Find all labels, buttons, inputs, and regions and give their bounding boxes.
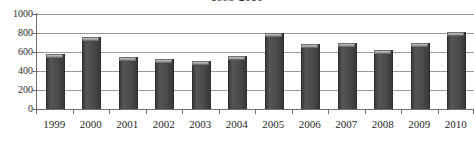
- y-axis-tick-label: 600: [0, 47, 33, 57]
- x-axis-tick-mark: [328, 109, 329, 114]
- chart-title: 1999-2010: [0, 0, 474, 3]
- x-axis-tick-mark: [365, 109, 366, 114]
- bar: [265, 33, 284, 109]
- x-axis-label-group: 1999200020012002200320042005200620072008…: [36, 117, 474, 139]
- x-axis-tick-label: 2005: [255, 117, 291, 131]
- x-axis-tick-mark: [401, 109, 402, 114]
- y-axis-tick-mark: [33, 71, 38, 72]
- x-axis-tick-mark: [219, 109, 220, 114]
- y-axis-tick-label: 1000: [0, 9, 33, 19]
- y-axis-tick-mark: [33, 33, 38, 34]
- x-axis-tick-label: 2000: [73, 117, 109, 131]
- x-axis-tick-mark: [182, 109, 183, 114]
- y-axis-tick-mark: [33, 52, 38, 53]
- x-axis-tick-mark: [255, 109, 256, 114]
- bar-top-cap: [411, 43, 428, 47]
- bar: [155, 59, 174, 109]
- bar-top-cap: [374, 50, 391, 54]
- bar: [82, 37, 101, 109]
- bar-top-cap: [228, 56, 245, 60]
- bar-top-cap: [46, 54, 63, 58]
- y-axis-tick-label: 800: [0, 28, 33, 38]
- y-axis-tick-label: 400: [0, 66, 33, 76]
- bar: [374, 50, 393, 109]
- y-axis-label-group: 10008006004002000: [0, 0, 33, 147]
- x-axis-tick-group: [36, 109, 474, 115]
- x-axis-tick-mark: [438, 109, 439, 114]
- bar-top-cap: [155, 59, 172, 63]
- bar: [411, 43, 430, 110]
- bar-top-cap: [192, 61, 209, 65]
- x-axis-tick-mark: [146, 109, 147, 114]
- y-axis-tick-mark: [33, 109, 38, 110]
- bar: [119, 57, 138, 109]
- y-axis-tick-mark: [33, 90, 38, 91]
- x-axis-tick-label: 1999: [36, 117, 72, 131]
- bar: [301, 44, 320, 109]
- bar-top-cap: [82, 37, 99, 41]
- x-axis-tick-mark: [73, 109, 74, 114]
- x-axis-tick-label: 2004: [219, 117, 255, 131]
- bar: [46, 54, 65, 109]
- x-axis-tick-label: 2010: [438, 117, 474, 131]
- bar: [228, 56, 247, 109]
- bar-chart-figure: 1999-2010 10008006004002000 199920002001…: [0, 0, 474, 147]
- x-axis-tick-label: 2007: [328, 117, 364, 131]
- x-axis-tick-label: 2006: [292, 117, 328, 131]
- bar: [447, 32, 466, 109]
- x-axis-tick-label: 2002: [146, 117, 182, 131]
- bar-top-cap: [338, 43, 355, 47]
- bar-top-cap: [119, 57, 136, 61]
- y-axis-tick-label: 200: [0, 85, 33, 95]
- bar: [338, 43, 357, 110]
- bar-top-cap: [265, 33, 282, 37]
- bar-top-cap: [301, 44, 318, 48]
- bar-top-cap: [447, 32, 464, 36]
- y-axis-tick-label: 0: [0, 104, 33, 114]
- bar-series-group: [36, 14, 474, 109]
- x-axis-tick-mark: [109, 109, 110, 114]
- x-axis-tick-label: 2009: [401, 117, 437, 131]
- x-axis-tick-label: 2001: [109, 117, 145, 131]
- x-axis-tick-mark: [292, 109, 293, 114]
- x-axis-tick-label: 2008: [365, 117, 401, 131]
- bar: [192, 61, 211, 109]
- x-axis-tick-label: 2003: [182, 117, 218, 131]
- y-axis-tick-mark: [33, 14, 38, 15]
